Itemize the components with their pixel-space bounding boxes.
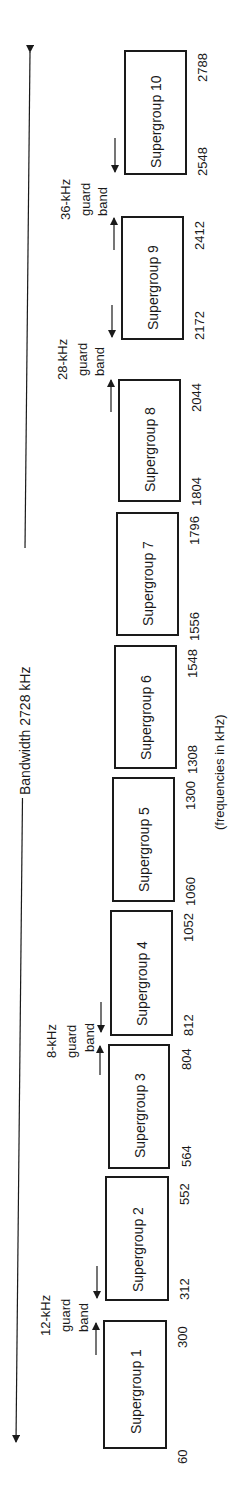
svg-text:guard: guard (58, 1299, 73, 1332)
svg-text:band: band (82, 1023, 97, 1052)
svg-text:Supergroup 10: Supergroup 10 (148, 75, 164, 168)
guard-band-12khz: 12-kHz guard band (38, 1266, 97, 1355)
svg-text:Supergroup 7: Supergroup 7 (140, 541, 156, 626)
svg-text:band: band (95, 187, 110, 216)
supergroup-5: Supergroup 5 (113, 778, 174, 901)
guard-band-36khz: 36-kHz guard band (58, 138, 115, 250)
freq-label: 1060 (183, 877, 198, 906)
freq-label: 812 (181, 1014, 196, 1036)
freq-label: 2412 (192, 221, 207, 250)
supergroup-4: Supergroup 4 (111, 911, 172, 1035)
supergroup-3: Supergroup 3 (109, 1045, 169, 1168)
svg-text:8-kHz: 8-kHz (44, 1024, 59, 1058)
supergroup-2: Supergroup 2 (106, 1177, 168, 1300)
bandwidth-label: Bandwidth 2728 kHz (17, 667, 33, 795)
guard-band-28khz: 28-kHz guard band (55, 305, 112, 412)
freq-label: 2788 (195, 53, 210, 82)
freq-label: 564 (179, 1145, 194, 1167)
svg-text:guard: guard (64, 1025, 79, 1058)
svg-text:Supergroup 4: Supergroup 4 (134, 941, 150, 1026)
svg-text:Supergroup 8: Supergroup 8 (142, 407, 158, 492)
units-note: (frequencies in kHz) (212, 714, 227, 830)
supergroup-6: Supergroup 6 (115, 646, 176, 768)
freq-label: 300 (175, 1326, 190, 1348)
freq-label: 1052 (181, 913, 196, 942)
supergroup-frequency-diagram: Bandwidth 2728 kHz Supergroup 1 60 300 S… (0, 0, 236, 1506)
supergroup-9: Supergroup 9 (122, 217, 183, 339)
freq-label: 804 (179, 1048, 194, 1070)
freq-label: 1548 (185, 649, 200, 678)
svg-text:Supergroup 3: Supergroup 3 (132, 1073, 148, 1158)
freq-label: 60 (175, 1450, 190, 1464)
svg-text:Supergroup 9: Supergroup 9 (145, 245, 161, 330)
supergroup-1: Supergroup 1 (104, 1321, 166, 1448)
supergroup-7: Supergroup 7 (117, 513, 178, 635)
svg-text:28-kHz: 28-kHz (55, 339, 70, 380)
freq-label: 2548 (195, 147, 210, 176)
freq-label: 1300 (183, 781, 198, 810)
svg-text:guard: guard (75, 343, 90, 376)
freq-label: 1556 (187, 612, 202, 641)
svg-text:band: band (92, 347, 107, 376)
svg-text:band: band (76, 1303, 91, 1332)
freq-label: 552 (177, 1183, 192, 1205)
freq-label: 1308 (185, 745, 200, 774)
freq-label: 1796 (187, 516, 202, 545)
svg-text:guard: guard (78, 183, 93, 216)
freq-label: 312 (177, 1278, 192, 1300)
freq-label: 2172 (192, 311, 207, 340)
freq-label: 1804 (189, 477, 204, 506)
supergroup-8: Supergroup 8 (119, 380, 180, 501)
svg-text:Supergroup 6: Supergroup 6 (138, 675, 154, 760)
svg-text:Supergroup 2: Supergroup 2 (130, 1207, 146, 1292)
svg-text:Supergroup 1: Supergroup 1 (128, 1349, 144, 1434)
svg-text:12-kHz: 12-kHz (38, 1295, 53, 1336)
supergroup-10: Supergroup 10 (125, 51, 186, 174)
svg-text:Supergroup 5: Supergroup 5 (136, 807, 152, 892)
freq-label: 2044 (189, 383, 204, 412)
svg-text:36-kHz: 36-kHz (58, 179, 73, 220)
guard-band-8khz: 8-kHz guard band (44, 1002, 101, 1075)
